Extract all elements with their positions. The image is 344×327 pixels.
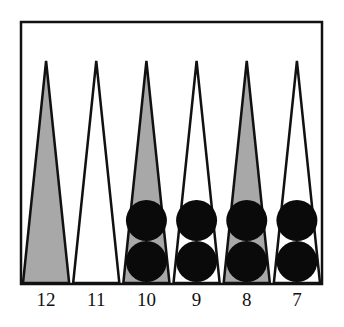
point-number-label: 8 xyxy=(242,289,252,310)
checker-point-7 xyxy=(276,241,317,282)
point-number-label: 12 xyxy=(37,289,56,310)
point-number-label: 7 xyxy=(292,289,302,310)
backgammon-board: 121110987 xyxy=(0,0,344,327)
point-number-label: 11 xyxy=(87,289,105,310)
checker-point-8 xyxy=(226,200,267,241)
checker-point-10 xyxy=(126,200,167,241)
checker-point-9 xyxy=(176,200,217,241)
checker-point-7 xyxy=(276,200,317,241)
checker-point-8 xyxy=(226,241,267,282)
checker-point-10 xyxy=(126,241,167,282)
point-number-label: 10 xyxy=(137,289,156,310)
point-number-label: 9 xyxy=(192,289,202,310)
checker-point-9 xyxy=(176,241,217,282)
